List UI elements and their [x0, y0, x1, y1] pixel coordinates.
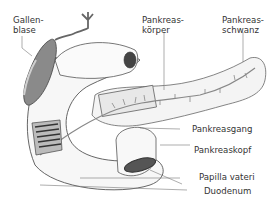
label-pancreas-body: Pankreas- körper	[142, 15, 184, 35]
label-duodenum: Duodenum	[204, 186, 251, 196]
papilla-window	[32, 120, 62, 155]
label-papilla-vateri: Papilla vateri	[199, 172, 255, 182]
label-pancreatic-duct: Pankreasgang	[192, 124, 252, 134]
bowel-opening	[124, 52, 136, 68]
bile-duct	[55, 12, 93, 40]
label-pancreas-head: Pankreaskopf	[194, 145, 251, 155]
label-gallbladder: Gallen- blase	[13, 15, 44, 35]
label-pancreas-tail: Pankreas- schwanz	[222, 15, 264, 35]
